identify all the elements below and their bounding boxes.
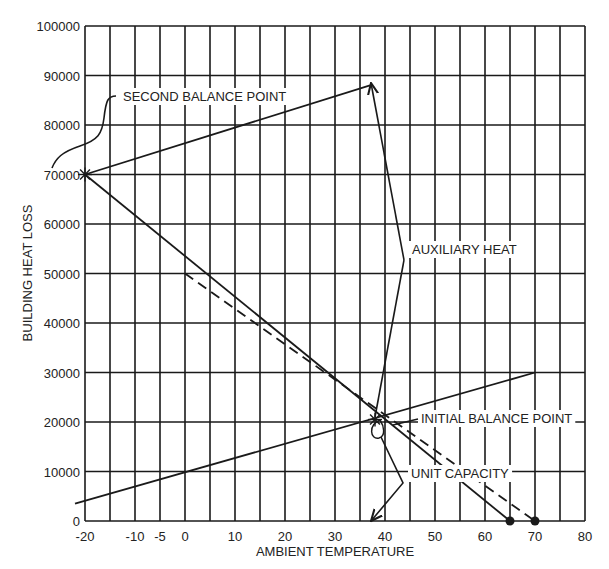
y-tick-label: 50000 [44, 267, 80, 282]
auxiliary-heat-arrow-up [371, 83, 404, 260]
y-tick-label: 80000 [44, 118, 80, 133]
x-tick-label: 60 [478, 529, 492, 544]
balance-dot [531, 517, 540, 526]
x-tick-label: 0 [181, 529, 188, 544]
y-tick-label: 0 [73, 514, 80, 529]
annotation-label: SECOND BALANCE POINT [123, 89, 286, 104]
x-axis-ticks: -20-10-501020304050607080 [76, 529, 593, 544]
y-tick-label: 10000 [44, 465, 80, 480]
y-tick-label: 90000 [44, 69, 80, 84]
y-tick-label: 30000 [44, 366, 80, 381]
x-tick-label: 20 [278, 529, 292, 544]
x-tick-label: -5 [154, 529, 166, 544]
annotation-label: AUXILIARY HEAT [412, 242, 517, 257]
balance-dot [506, 517, 515, 526]
x-tick-label: 40 [378, 529, 392, 544]
x-axis-title: AMBIENT TEMPERATURE [256, 544, 415, 559]
y-tick-label: 70000 [44, 168, 80, 183]
annotation-label: INITIAL BALANCE POINT [421, 411, 572, 426]
x-tick-label: 10 [228, 529, 242, 544]
y-tick-label: 40000 [44, 316, 80, 331]
y-tick-label: 100000 [37, 19, 80, 34]
x-tick-label: -20 [76, 529, 95, 544]
x-tick-label: 70 [528, 529, 542, 544]
x-tick-label: 50 [428, 529, 442, 544]
annotations: SECOND BALANCE POINTAUXILIARY HEATINITIA… [52, 83, 575, 521]
x-tick-label: 30 [328, 529, 342, 544]
y-axis-title: BUILDING HEAT LOSS [20, 204, 35, 341]
x-tick-label: -10 [126, 529, 145, 544]
data-series [75, 85, 540, 525]
x-tick-label: 80 [578, 529, 592, 544]
heat-balance-chart: 0100002000030000400005000060000700008000… [0, 0, 609, 569]
y-axis-ticks: 0100002000030000400005000060000700008000… [37, 19, 80, 529]
y-tick-label: 20000 [44, 415, 80, 430]
annotation-label: UNIT CAPACITY [411, 466, 509, 481]
unit-capacity-arrow [371, 437, 403, 521]
y-tick-label: 60000 [44, 217, 80, 232]
auxiliary-heat-arrow-down [375, 260, 404, 417]
